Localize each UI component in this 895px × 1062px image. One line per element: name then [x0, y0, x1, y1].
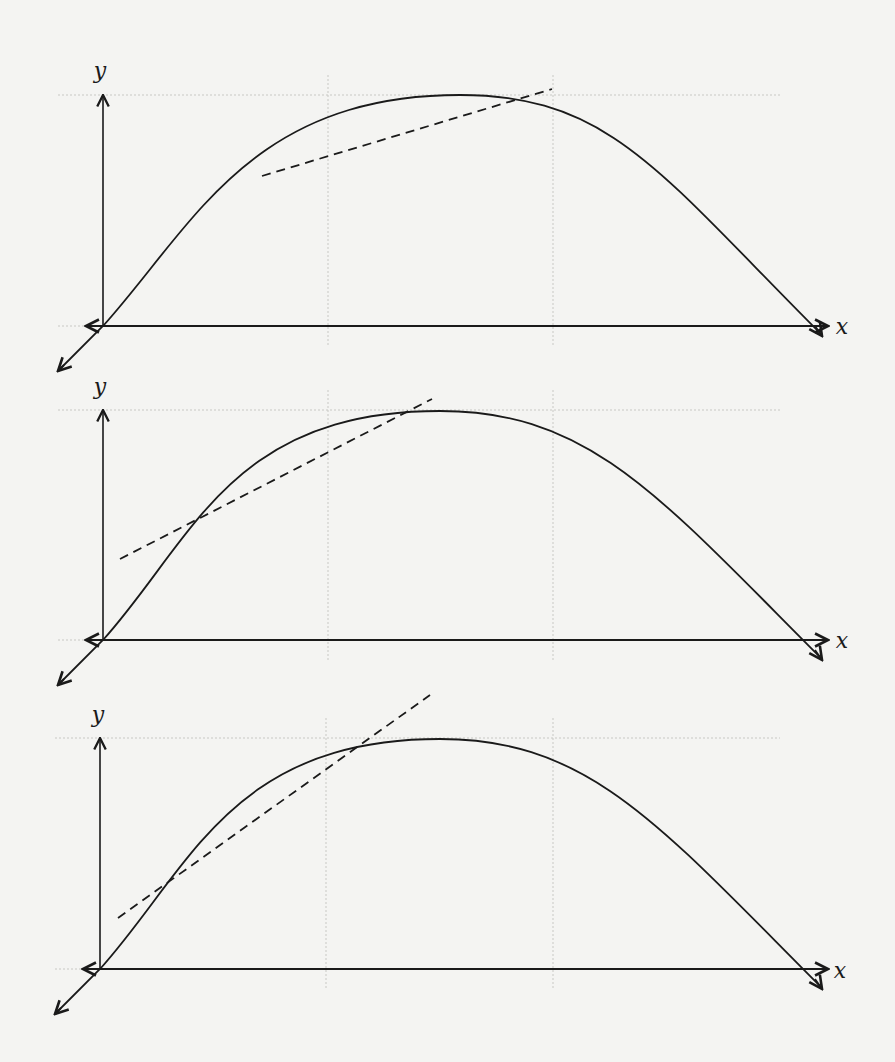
secant-line: [262, 89, 552, 176]
curve-arrow-right: [815, 650, 822, 660]
panel-1: yx: [58, 58, 849, 371]
y-axis-label: y: [93, 374, 107, 399]
curve-arrow-left: [55, 1008, 61, 1014]
panel-3: yx: [55, 695, 847, 1014]
secant-line: [120, 399, 432, 559]
function-curve: [55, 739, 820, 1014]
x-axis-label: x: [836, 314, 849, 339]
x-axis-label: x: [834, 958, 847, 983]
curve-arrow-left: [58, 365, 64, 371]
curve-arrow-left: [58, 679, 64, 685]
function-curve: [58, 95, 820, 371]
secant-line: [118, 695, 430, 918]
y-axis-label: y: [91, 702, 105, 727]
panel-2: yx: [58, 374, 849, 685]
x-axis-label: x: [836, 628, 849, 653]
figure-stage: yxyxyx: [0, 0, 895, 1062]
secant-to-tangent-figure: yxyxyx: [0, 0, 895, 1062]
function-curve: [58, 411, 820, 685]
y-axis-label: y: [93, 58, 107, 83]
curve-arrow-right: [815, 979, 822, 989]
curve-arrow-right: [815, 326, 822, 336]
